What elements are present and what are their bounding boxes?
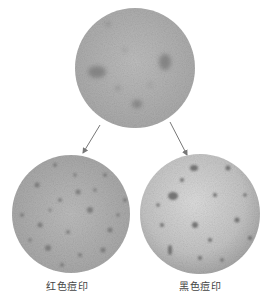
skin-before-circle xyxy=(75,8,195,128)
arrow-to-red-marks xyxy=(83,125,100,153)
red-marks-label: 红色痘印 xyxy=(27,278,107,293)
arrow-to-black-marks xyxy=(170,122,187,155)
red-marks-circle xyxy=(12,155,130,273)
black-marks-label: 黑色痘印 xyxy=(160,278,240,293)
black-marks-circle xyxy=(140,154,260,274)
